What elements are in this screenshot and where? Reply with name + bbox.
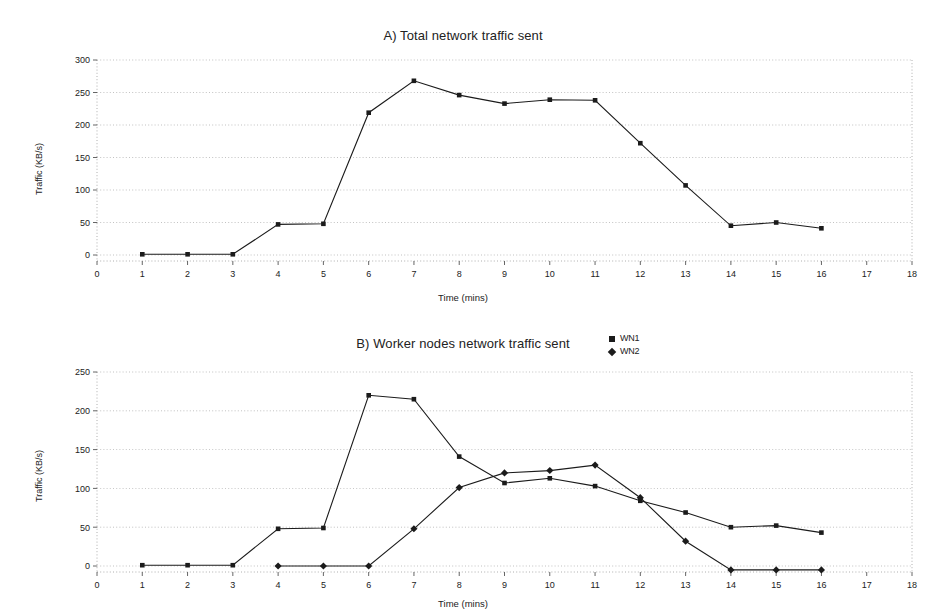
- svg-text:100: 100: [75, 185, 90, 195]
- svg-text:9: 9: [502, 580, 507, 590]
- svg-text:14: 14: [726, 580, 736, 590]
- svg-text:6: 6: [366, 580, 371, 590]
- svg-text:0: 0: [85, 250, 90, 260]
- svg-text:9: 9: [502, 269, 507, 279]
- svg-text:12: 12: [635, 269, 645, 279]
- svg-text:1: 1: [140, 269, 145, 279]
- svg-text:6: 6: [366, 269, 371, 279]
- svg-text:16: 16: [816, 580, 826, 590]
- svg-text:250: 250: [75, 88, 90, 98]
- svg-text:10: 10: [545, 580, 555, 590]
- svg-text:2: 2: [185, 580, 190, 590]
- svg-text:5: 5: [321, 580, 326, 590]
- svg-text:7: 7: [411, 580, 416, 590]
- svg-text:14: 14: [726, 269, 736, 279]
- svg-text:2: 2: [185, 269, 190, 279]
- svg-text:18: 18: [907, 269, 917, 279]
- svg-text:0: 0: [94, 580, 99, 590]
- svg-text:11: 11: [590, 269, 599, 279]
- svg-text:200: 200: [75, 120, 90, 130]
- svg-text:13: 13: [681, 580, 691, 590]
- svg-text:50: 50: [80, 218, 90, 228]
- svg-text:8: 8: [457, 580, 462, 590]
- svg-text:17: 17: [862, 580, 872, 590]
- chart-panel-a: A) Total network traffic sent Traffic (K…: [0, 0, 926, 310]
- svg-text:300: 300: [75, 55, 90, 65]
- svg-text:17: 17: [862, 269, 872, 279]
- svg-text:18: 18: [907, 580, 917, 590]
- svg-text:150: 150: [75, 445, 90, 455]
- svg-text:4: 4: [276, 580, 281, 590]
- svg-text:12: 12: [635, 580, 645, 590]
- chart-b-plot: 0501001502002500123456789101112131415161…: [0, 310, 926, 616]
- svg-text:15: 15: [771, 580, 781, 590]
- svg-text:150: 150: [75, 153, 90, 163]
- svg-text:0: 0: [85, 561, 90, 571]
- svg-text:100: 100: [75, 484, 90, 494]
- svg-text:5: 5: [321, 269, 326, 279]
- svg-text:3: 3: [230, 580, 235, 590]
- chart-page: A) Total network traffic sent Traffic (K…: [0, 0, 926, 616]
- svg-text:0: 0: [94, 269, 99, 279]
- svg-text:8: 8: [457, 269, 462, 279]
- svg-text:15: 15: [771, 269, 781, 279]
- svg-text:250: 250: [75, 367, 90, 377]
- chart-panel-b: B) Worker nodes network traffic sent WN1…: [0, 310, 926, 616]
- svg-text:1: 1: [140, 580, 145, 590]
- svg-text:13: 13: [681, 269, 691, 279]
- svg-text:200: 200: [75, 406, 90, 416]
- svg-text:16: 16: [816, 269, 826, 279]
- svg-text:11: 11: [590, 580, 599, 590]
- svg-text:3: 3: [230, 269, 235, 279]
- svg-text:4: 4: [276, 269, 281, 279]
- svg-text:10: 10: [545, 269, 555, 279]
- chart-a-plot: 0501001502002503000123456789101112131415…: [0, 0, 926, 310]
- svg-text:50: 50: [80, 523, 90, 533]
- svg-text:7: 7: [411, 269, 416, 279]
